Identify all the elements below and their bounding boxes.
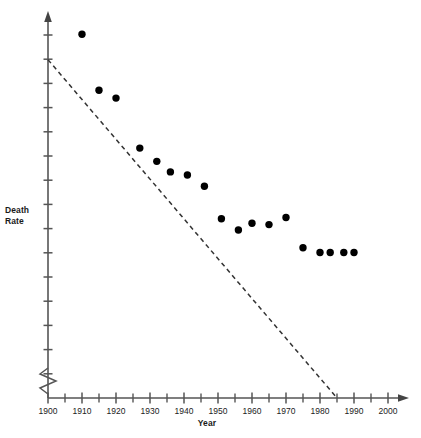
data-point [316,249,323,256]
x-axis-tick-label: 1970 [277,406,296,416]
x-axis-tick-labels: 1900191019201930194019501960197019801990… [39,406,398,416]
x-axis-tick-label: 1940 [175,406,194,416]
data-point [153,158,160,165]
data-point [340,249,347,256]
data-point [136,144,143,151]
y-axis-label: Death Rate [5,205,45,227]
trend-line [48,60,337,398]
data-point [248,220,255,227]
data-point [299,244,306,251]
data-point [184,171,191,178]
x-axis-tick-label: 1910 [73,406,92,416]
data-point [78,31,85,38]
plot-area: 1900191019201930194019501960197019801990… [0,0,421,438]
x-axis-tick-label: 1980 [311,406,330,416]
data-point [201,182,208,189]
scatter-chart: 1900191019201930194019501960197019801990… [0,0,421,438]
data-point [265,221,272,228]
x-axis-tick-label: 1950 [209,406,228,416]
x-axis-tick-label: 2000 [379,406,398,416]
data-point [235,226,242,233]
x-axis-tick-label: 1960 [243,406,262,416]
x-axis-tick-label: 1930 [141,406,160,416]
data-point [282,214,289,221]
data-point [167,168,174,175]
x-axis-arrow-icon [398,394,409,402]
x-axis-tick-label: 1920 [107,406,126,416]
data-point [327,249,334,256]
data-point [112,94,119,101]
data-point [218,215,225,222]
x-axis-tick-label: 1900 [39,406,58,416]
x-axis-label: Year [0,418,414,429]
data-point-group [78,31,357,257]
x-axis-tick-label: 1990 [345,406,364,416]
y-axis-arrow-icon [44,11,52,22]
data-point [350,249,357,256]
data-point [95,87,102,94]
